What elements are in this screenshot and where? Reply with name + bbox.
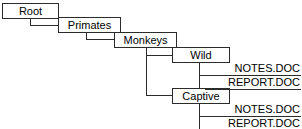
tree-node-label: Captive — [182, 91, 219, 102]
tree-file-wild-notes[interactable]: NOTES.DOC — [205, 62, 301, 76]
tree-node-label: Primates — [68, 20, 111, 31]
connector-primates-to-monkeys — [86, 39, 115, 40]
tree-node-root[interactable]: Root — [2, 3, 59, 19]
tree-file-captive-notes[interactable]: NOTES.DOC — [205, 103, 301, 117]
connector-wild-down — [199, 63, 200, 90]
directory-tree-diagram: RootPrimatesMonkeysWildCaptive NOTES.DOC… — [0, 0, 302, 129]
tree-file-label: REPORT.DOC — [228, 118, 300, 129]
tree-node-primates[interactable]: Primates — [58, 17, 121, 33]
tree-node-label: Monkeys — [123, 35, 167, 46]
tree-node-wild[interactable]: Wild — [172, 47, 230, 63]
tree-file-wild-report[interactable]: REPORT.DOC — [205, 76, 301, 90]
tree-node-captive[interactable]: Captive — [172, 88, 230, 104]
tree-file-label: NOTES.DOC — [235, 104, 300, 115]
tree-node-label: Wild — [190, 50, 211, 61]
tree-file-label: REPORT.DOC — [228, 77, 300, 88]
tree-node-monkeys[interactable]: Monkeys — [114, 32, 177, 48]
tree-file-captive-report[interactable]: REPORT.DOC — [205, 117, 301, 129]
connector-monkeys-to-wild — [146, 55, 173, 56]
connector-root-to-primates — [30, 25, 59, 26]
tree-node-label: Root — [19, 6, 42, 17]
tree-file-label: NOTES.DOC — [235, 63, 300, 74]
connector-monkeys-to-captive — [146, 95, 173, 96]
